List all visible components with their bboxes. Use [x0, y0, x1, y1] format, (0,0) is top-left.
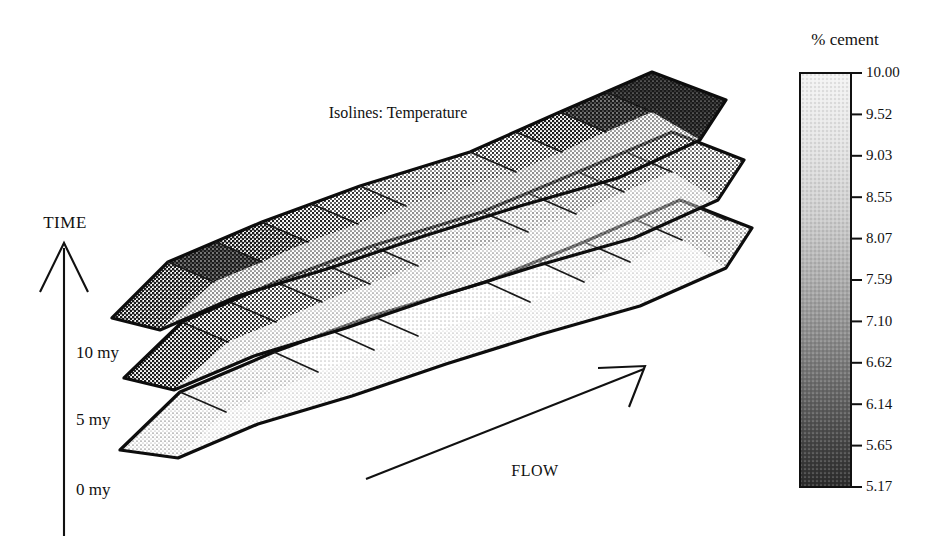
- colorbar-halftone-overlay: [800, 73, 851, 487]
- time-axis: TIME 10 my 5 my 0 my: [40, 213, 119, 536]
- colorbar-tick-label: 6.62: [866, 354, 892, 370]
- colorbar-tick-label: 5.65: [866, 437, 892, 453]
- colorbar-title: % cement: [811, 30, 879, 49]
- colorbar-ticks: 10.009.529.038.558.077.597.106.626.145.6…: [851, 64, 900, 494]
- colorbar-tick-label: 10.00: [866, 64, 900, 80]
- time-tick-0my: 0 my: [76, 480, 111, 499]
- flow-label: FLOW: [511, 462, 559, 479]
- figure-canvas: Isolines: Temperature TIME 10 my 5 my 0 …: [0, 0, 935, 548]
- flow-arrow: FLOW: [366, 366, 645, 479]
- isolines-title: Isolines: Temperature: [329, 104, 468, 122]
- colorbar[interactable]: % cement 10.009.529.038.558.077.597.106.…: [800, 30, 900, 494]
- colorbar-tick-label: 7.10: [866, 313, 892, 329]
- colorbar-tick-label: 9.03: [866, 147, 892, 163]
- colorbar-tick-label: 5.17: [866, 478, 893, 494]
- colorbar-tick-label: 8.07: [866, 230, 893, 246]
- colorbar-tick-label: 9.52: [866, 106, 892, 122]
- time-axis-label: TIME: [43, 213, 87, 232]
- colorbar-tick-label: 7.59: [866, 271, 892, 287]
- flow-arrow-shaft: [366, 369, 644, 479]
- time-tick-5my: 5 my: [76, 410, 111, 429]
- time-tick-10my: 10 my: [76, 343, 119, 362]
- colorbar-tick-label: 8.55: [866, 189, 892, 205]
- colorbar-tick-label: 6.14: [866, 396, 893, 412]
